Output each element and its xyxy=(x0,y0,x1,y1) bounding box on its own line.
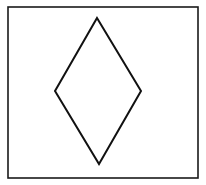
diagram-canvas xyxy=(0,0,206,185)
frame-rectangle xyxy=(8,7,198,178)
diamond-shape xyxy=(55,18,141,164)
